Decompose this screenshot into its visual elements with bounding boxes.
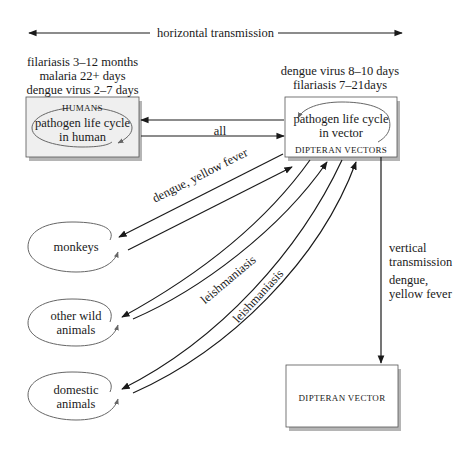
human-duration-malaria: malaria 22+ days <box>26 69 139 83</box>
vertical-label-1: vertical <box>389 241 426 255</box>
vector-cycle-line1: pathogen life cycle <box>285 112 397 126</box>
host-wild-line1: other wild <box>40 309 112 323</box>
link-all-label: all <box>200 124 240 138</box>
host-domestic-line2: animals <box>40 397 112 411</box>
human-cycle-line1: pathogen life cycle <box>26 116 139 130</box>
vertical-label-2: transmission <box>389 255 452 269</box>
vertical-label-4: yellow fever <box>389 287 452 301</box>
vector-duration-filariasis: filariasis 7–21days <box>270 78 410 92</box>
vector-duration-dengue: dengue virus 8–10 days <box>270 64 410 78</box>
vector-cycle-line2: in vector <box>285 126 397 140</box>
vertical-label-3: dengue, <box>389 273 428 287</box>
human-duration-dengue: dengue virus 2–7 days <box>26 83 139 97</box>
host-domestic-line1: domestic <box>40 383 112 397</box>
host-monkeys: monkeys <box>40 240 112 254</box>
vectors-title: DIPTERAN VECTORS <box>285 143 397 157</box>
humans-title: HUMANS <box>26 101 139 115</box>
human-duration-filariasis: filariasis 3–12 months <box>26 55 139 69</box>
dipteran-vector-title: DIPTERAN VECTOR <box>286 391 398 405</box>
human-cycle-line2: in human <box>26 130 139 144</box>
host-wild-line2: animals <box>40 323 112 337</box>
horizontal-transmission-label: horizontal transmission <box>157 26 274 40</box>
